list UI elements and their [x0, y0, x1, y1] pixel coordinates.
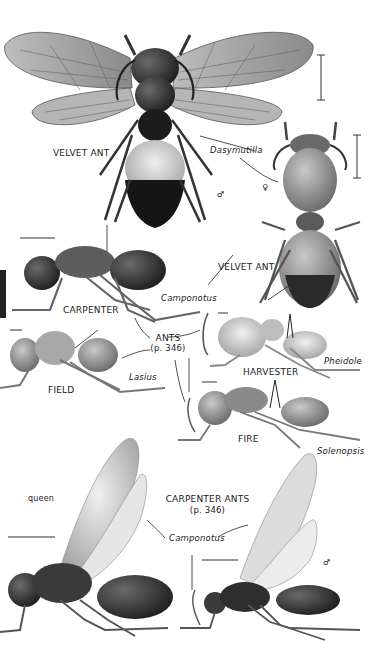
label-male-symbol-1: ♂: [217, 190, 224, 199]
label-camponotus-2: Camponotus: [169, 533, 225, 543]
velvet-ant-male-illustration: [5, 32, 314, 228]
label-male-symbol-2: ♂: [323, 558, 330, 567]
field-ant-illustration: [0, 330, 165, 392]
label-carpenter-ants-page: (p. 346): [180, 505, 235, 515]
plate-illustrations: [0, 0, 383, 652]
label-solenopsis: Solenopsis: [317, 446, 364, 456]
insect-plate: VELVET ANT Dasymutilla ♂ ♀ VELVET ANT Ca…: [0, 0, 383, 652]
fire-ant-illustration: [178, 380, 360, 448]
label-carpenter: CARPENTER: [63, 305, 119, 315]
cropped-specimen-edge: [0, 270, 6, 318]
velvet-ant-female-illustration: [260, 122, 360, 308]
label-carpenter-ants: CARPENTER ANTS: [160, 494, 255, 504]
label-lasius: Lasius: [129, 372, 157, 382]
label-field: FIELD: [48, 385, 74, 395]
label-ants-page: (p. 346): [148, 343, 188, 353]
label-pheidole: Pheidole: [324, 356, 362, 366]
label-harvester: HARVESTER: [243, 367, 298, 377]
label-camponotus-1: Camponotus: [161, 293, 217, 303]
carpenter-male-illustration: [180, 454, 360, 640]
label-queen: queen: [28, 494, 54, 503]
label-ants: ANTS: [152, 333, 184, 343]
carpenter-queen-illustration: [0, 438, 173, 636]
label-velvet-ant-mid: VELVET ANT: [218, 262, 274, 272]
label-dasymutilla: Dasymutilla: [210, 145, 263, 155]
label-velvet-ant-top: VELVET ANT: [53, 148, 109, 158]
label-fire: FIRE: [238, 434, 259, 444]
label-female-symbol: ♀: [262, 183, 268, 192]
